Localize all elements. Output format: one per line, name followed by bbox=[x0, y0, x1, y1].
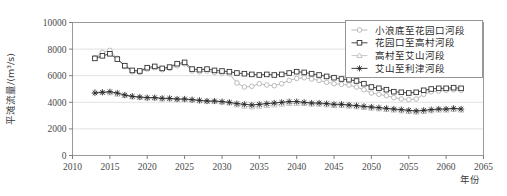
series-marker bbox=[421, 88, 426, 93]
legend: 小浪底至花园口河段花园口至高村河段高村至艾山河段艾山至利津河段 bbox=[346, 21, 483, 78]
x-tick-label: 2040 bbox=[287, 162, 306, 172]
series-marker bbox=[302, 75, 307, 80]
series-marker bbox=[309, 71, 314, 76]
series-marker bbox=[129, 93, 135, 99]
series-marker bbox=[190, 67, 195, 72]
x-tick-label: 2020 bbox=[138, 162, 157, 172]
series-marker bbox=[377, 92, 382, 97]
series-marker bbox=[458, 106, 464, 112]
series-marker bbox=[138, 69, 143, 74]
series-marker bbox=[317, 73, 322, 78]
series-marker bbox=[205, 67, 210, 72]
series-marker bbox=[399, 90, 404, 95]
series-marker bbox=[294, 69, 299, 74]
series-marker bbox=[384, 87, 389, 92]
x-tick-label: 2045 bbox=[325, 162, 344, 172]
y-tick-label: 6000 bbox=[48, 71, 67, 81]
series-marker bbox=[242, 85, 247, 90]
series-marker bbox=[197, 67, 202, 72]
series-marker bbox=[99, 89, 105, 95]
chart-canvas: 0200040006000800010000201020152020202520… bbox=[0, 0, 507, 196]
series-marker bbox=[235, 71, 240, 76]
series-marker bbox=[114, 90, 120, 96]
series-marker bbox=[339, 77, 344, 82]
series-marker bbox=[459, 86, 464, 91]
series-marker bbox=[436, 86, 441, 91]
series-marker bbox=[159, 95, 165, 101]
series-marker bbox=[249, 102, 255, 108]
series-marker bbox=[309, 100, 315, 106]
series-marker bbox=[93, 56, 98, 61]
series-marker bbox=[152, 95, 158, 101]
series-marker bbox=[257, 81, 262, 86]
x-tick-label: 2050 bbox=[362, 162, 381, 172]
series-marker bbox=[407, 97, 412, 102]
x-axis-title: 年份 bbox=[460, 174, 480, 185]
series-marker bbox=[369, 91, 374, 96]
series-marker bbox=[250, 84, 255, 89]
flow-discharge-line-chart: 0200040006000800010000201020152020202520… bbox=[0, 0, 507, 196]
series-marker bbox=[302, 70, 307, 75]
series-marker bbox=[220, 69, 225, 74]
series-marker bbox=[265, 83, 270, 88]
legend-item-label: 艾山至利津河段 bbox=[375, 63, 445, 74]
series-marker bbox=[332, 75, 337, 80]
series-marker bbox=[279, 72, 284, 77]
series-marker bbox=[392, 95, 397, 100]
series-marker bbox=[160, 66, 165, 71]
series-marker bbox=[301, 99, 307, 105]
series-marker bbox=[406, 107, 412, 113]
series-marker bbox=[272, 73, 277, 78]
series-marker bbox=[100, 54, 105, 59]
series-marker bbox=[331, 101, 337, 107]
series-marker bbox=[368, 104, 374, 110]
series-marker bbox=[234, 101, 240, 107]
series-marker bbox=[182, 60, 187, 65]
series-marker bbox=[338, 101, 344, 107]
series-marker bbox=[174, 96, 180, 102]
y-tick-label: 0 bbox=[62, 151, 67, 161]
series-marker bbox=[392, 89, 397, 94]
series-marker bbox=[256, 101, 262, 107]
series-marker bbox=[257, 73, 262, 78]
series-marker bbox=[436, 106, 442, 112]
series-marker bbox=[226, 99, 232, 105]
series-marker bbox=[204, 98, 210, 104]
series-marker bbox=[443, 106, 449, 112]
series-marker bbox=[361, 103, 367, 109]
series-marker bbox=[130, 68, 135, 73]
series-marker bbox=[324, 74, 329, 79]
series-marker bbox=[122, 92, 128, 98]
y-tick-label: 4000 bbox=[48, 98, 67, 108]
series-marker bbox=[347, 77, 352, 82]
series-marker bbox=[227, 69, 232, 74]
x-tick-label: 2030 bbox=[213, 162, 232, 172]
series-marker bbox=[347, 83, 352, 88]
x-axis: 2010201520202025203020352040204520502055… bbox=[63, 156, 493, 172]
series-marker bbox=[279, 99, 285, 105]
x-tick-label: 2015 bbox=[100, 162, 119, 172]
series-marker bbox=[383, 105, 389, 111]
series-marker bbox=[451, 85, 456, 90]
series-marker bbox=[444, 86, 449, 91]
series-marker bbox=[413, 108, 419, 114]
series-marker bbox=[144, 95, 150, 101]
series-marker bbox=[196, 97, 202, 103]
series-marker bbox=[242, 71, 247, 76]
series-marker bbox=[189, 97, 195, 103]
series-marker bbox=[108, 52, 113, 57]
series-marker bbox=[294, 99, 300, 105]
series-marker bbox=[167, 95, 173, 101]
series-marker bbox=[377, 86, 382, 91]
y-tick-label: 2000 bbox=[48, 124, 67, 134]
series-marker bbox=[219, 99, 225, 105]
series-marker bbox=[241, 101, 247, 107]
series-marker bbox=[451, 105, 457, 111]
series-marker bbox=[286, 99, 292, 105]
legend-sample-marker bbox=[357, 41, 362, 46]
series-marker bbox=[353, 103, 359, 109]
legend-item-label: 高村至艾山河段 bbox=[375, 50, 445, 61]
series-marker bbox=[362, 87, 367, 92]
legend-item-label: 小浪底至花园口河段 bbox=[375, 25, 465, 36]
legend-sample-marker bbox=[356, 65, 362, 71]
